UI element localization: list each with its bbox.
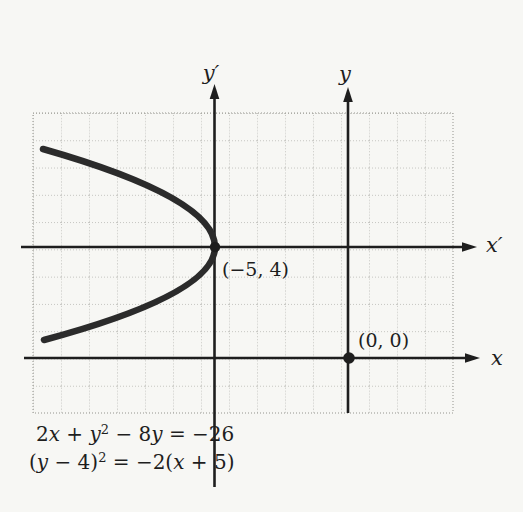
parabola-graph-svg: y′ y x′ x (−5, 4) (0, 0) 2x + y2 − 8y = … (0, 0, 523, 512)
vertex-coordinates-label: (−5, 4) (222, 258, 289, 280)
vertex-point (210, 242, 220, 252)
x-prime-axis-label: x′ (486, 233, 503, 257)
origin-point (343, 352, 355, 364)
equation-line-2: (y − 4)2 = −2(x + 5) (29, 450, 234, 474)
parabola-translation-figure: y′ y x′ x (−5, 4) (0, 0) 2x + y2 − 8y = … (0, 0, 523, 512)
equation-line-1: 2x + y2 − 8y = −26 (36, 422, 234, 446)
x-axis-arrowhead-icon (465, 353, 480, 363)
y-axis-arrowhead-icon (343, 87, 353, 102)
y-axis-label: y (338, 62, 352, 86)
y-prime-axis-label: y′ (202, 61, 220, 85)
x-axis-label: x (491, 346, 503, 370)
y-prime-axis-arrowhead-icon (210, 84, 220, 99)
x-prime-axis-arrowhead-icon (462, 242, 477, 252)
origin-coordinates-label: (0, 0) (358, 329, 409, 351)
